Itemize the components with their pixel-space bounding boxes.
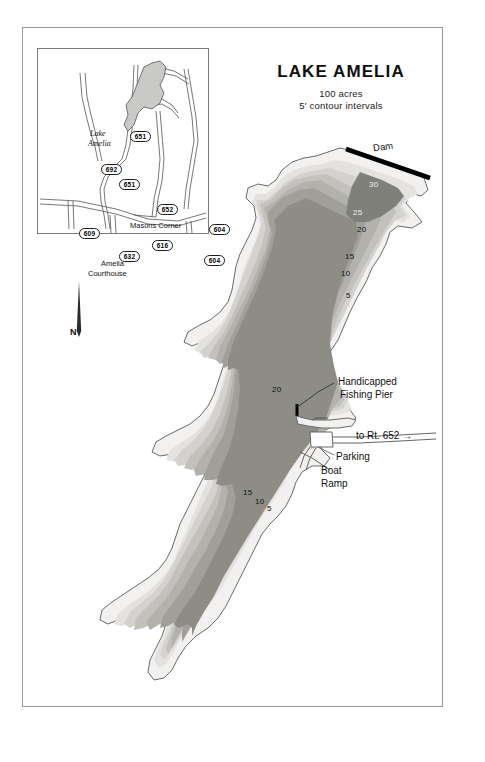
lake-map-page: Lake Amelia Masons Corner Amelia Courtho… [0,0,485,762]
depth-label-5-9: 5 [267,504,272,513]
depth-label-15-7: 15 [243,488,252,497]
lake-bathymetry-graphic [0,0,485,762]
depth-label-15-3: 15 [345,252,354,261]
dam-label: Dam [372,139,394,155]
depth-label-20-6: 20 [272,385,281,394]
fishing-pier-label-line2: Fishing Pier [340,388,393,401]
depth-label-30-0: 30 [369,180,378,189]
route-652-label: to Rt. 652 → [356,429,412,442]
parking-label: Parking [336,450,370,463]
depth-label-10-4: 10 [341,269,350,278]
depth-label-20-2: 20 [357,225,366,234]
boat-ramp-label-line2: Ramp [321,477,348,490]
depth-label-10-8: 10 [255,497,264,506]
depth-label-25-1: 25 [353,208,362,217]
fishing-pier-label-line1: Handicapped [338,375,397,388]
depth-label-5-5: 5 [346,291,351,300]
boat-ramp-label-line1: Boat [321,464,342,477]
north-arrow-label: N [70,327,77,337]
parking-lot-shape [310,432,333,447]
